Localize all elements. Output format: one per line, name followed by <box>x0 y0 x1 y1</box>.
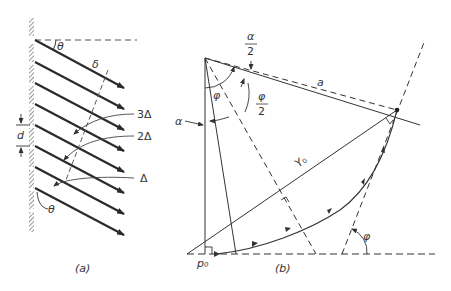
panel-b-labels: α 2 a φ φ 2 α Y₀ p₀ φ (b) <box>175 30 371 275</box>
label-3delta: 3Δ <box>137 108 152 121</box>
a-label: a <box>317 76 324 89</box>
phi-right-label: φ <box>363 230 371 243</box>
diffraction-figure: θ δ 3Δ 2Δ Δ d θ (a) <box>0 0 451 291</box>
phi-half-den: 2 <box>258 105 265 118</box>
panel-b <box>185 40 435 257</box>
alpha-pointer <box>185 121 203 125</box>
right-angle-top <box>386 118 393 124</box>
alpha-half-num: α <box>247 30 255 43</box>
alpha-label: α <box>175 115 183 128</box>
leader-delta <box>54 177 134 186</box>
alpha-arc <box>210 117 229 121</box>
right-angle-p0 <box>205 247 212 254</box>
phi-half-arc-2 <box>241 79 244 87</box>
d-label: d <box>17 129 25 142</box>
label-delta: Δ <box>140 172 148 185</box>
theta-label-top: θ <box>57 40 64 53</box>
caption-b: (b) <box>275 262 291 275</box>
y0-label: Y₀ <box>292 153 310 171</box>
delta-label: δ <box>92 58 99 71</box>
caption-a: (a) <box>75 262 90 275</box>
theta-label-bottom: θ <box>48 203 55 216</box>
alpha-half-den: 2 <box>247 45 254 58</box>
panel-a: θ δ 3Δ 2Δ Δ d θ (a) <box>16 18 152 275</box>
dashed-a-line <box>205 58 397 110</box>
theta-arc-top <box>53 40 56 50</box>
phi-half-num: φ <box>258 90 266 103</box>
leader-3delta <box>74 114 134 134</box>
label-2delta: 2Δ <box>137 130 152 143</box>
phi-half-arc <box>245 83 249 112</box>
phi-label: φ <box>213 89 221 102</box>
p0-label: p₀ <box>196 257 209 270</box>
